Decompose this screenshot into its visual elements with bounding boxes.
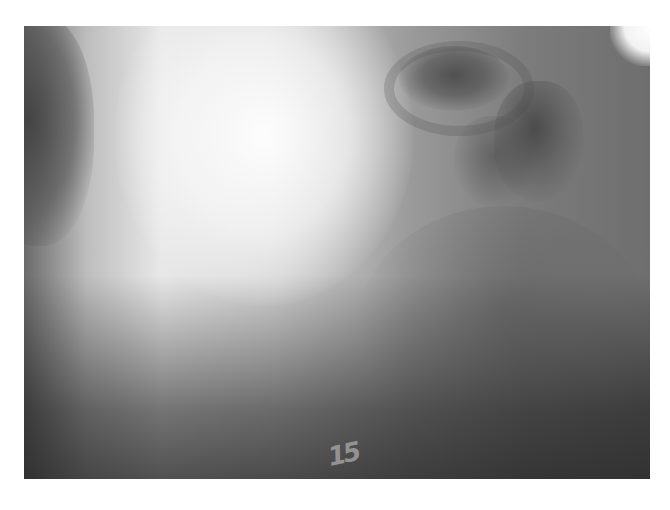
orbit-shadow (399, 46, 509, 111)
left-dark-region (24, 26, 94, 246)
film-marker: 15 (325, 436, 361, 472)
jaw-shadow (354, 206, 650, 466)
bright-soft-tissue-region (114, 26, 414, 306)
corner-highlight (610, 26, 650, 66)
sinus-shadow-secondary (454, 116, 534, 206)
xray-image: 15 (24, 26, 650, 479)
